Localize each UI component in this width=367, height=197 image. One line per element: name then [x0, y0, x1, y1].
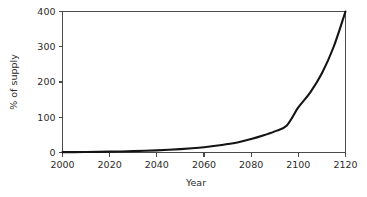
x-tick-label: 2040	[145, 159, 169, 170]
x-tick-label: 2080	[239, 159, 263, 170]
x-tick-label: 2120	[333, 159, 357, 170]
x-tick-label: 2020	[98, 159, 122, 170]
x-tick-label: 2100	[286, 159, 310, 170]
y-tick-label: 400	[37, 6, 55, 17]
x-tick-label: 2000	[50, 159, 74, 170]
y-tick-label: 200	[37, 76, 55, 87]
y-tick-label: 0	[49, 147, 55, 158]
y-tick-label: 100	[37, 112, 55, 123]
y-axis-title: % of supply	[8, 54, 19, 110]
chart-container: 0100200300400 20002020204020602080210021…	[0, 0, 367, 197]
chart-plot: 0100200300400 20002020204020602080210021…	[0, 0, 367, 197]
x-tick-label: 2060	[192, 159, 216, 170]
x-axis-title: Year	[185, 177, 206, 188]
y-tick-label: 300	[37, 41, 55, 52]
